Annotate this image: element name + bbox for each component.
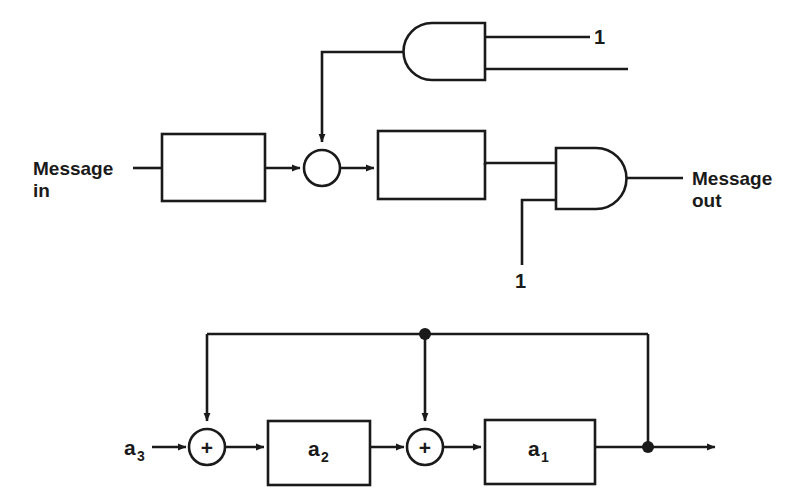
label-block-a2-subscript: 2: [321, 449, 329, 465]
block-a1[interactable]: [485, 420, 595, 484]
label-adder-1-symbol: +: [201, 436, 213, 459]
label-message-out-line1: Message: [692, 168, 772, 189]
figure-root: 1 1 Message in Message out a 3: [0, 0, 809, 503]
label-message-in-line1: Message: [33, 158, 113, 179]
wire-and-gate-output-input-bottom: [522, 200, 556, 265]
label-block-a2: a: [308, 437, 320, 460]
label-block-a1-subscript: 1: [541, 449, 549, 465]
diagram-top-group: 1 1 Message in Message out: [33, 23, 772, 292]
label-input-a3: a: [124, 436, 136, 459]
label-message-out-line2: out: [692, 190, 722, 211]
and-gate-upper[interactable]: [404, 23, 486, 80]
tap-dot-right: [642, 441, 654, 453]
label-block-a1: a: [528, 437, 540, 460]
and-gate-output[interactable]: [556, 148, 626, 209]
label-adder-2-symbol: +: [419, 436, 431, 459]
label-constant-one-upper: 1: [594, 26, 605, 48]
label-constant-one-lower: 1: [515, 270, 526, 292]
tap-dot-mid: [419, 328, 431, 340]
label-message-in-line2: in: [33, 180, 50, 201]
label-input-a3-subscript: 3: [137, 448, 145, 464]
block-diagram-svg: 1 1 Message in Message out a 3: [0, 0, 809, 503]
input-block[interactable]: [162, 134, 265, 201]
shift-register-block[interactable]: [378, 131, 485, 199]
wire-and-gate-upper-output: [322, 52, 404, 142]
summing-junction[interactable]: [304, 150, 340, 186]
diagram-bottom-group: a 3 + a 2 + a 1: [124, 328, 715, 485]
